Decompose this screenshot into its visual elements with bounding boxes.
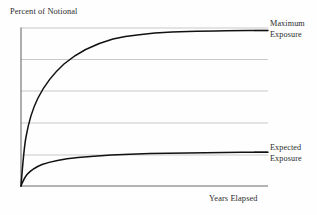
gridlines [21, 28, 268, 155]
annotation-maximum-exposure-line2: Exposure [270, 30, 305, 41]
annotation-maximum-exposure: Maximum Exposure [270, 19, 305, 40]
annotation-expected-exposure-line2: Exposure [270, 154, 302, 165]
y-axis-title: Percent of Notional [10, 7, 78, 18]
annotation-maximum-exposure-line1: Maximum [270, 19, 305, 30]
series-line-expected-exposure [21, 152, 268, 186]
annotation-expected-exposure: Expected Exposure [270, 143, 302, 164]
series-line-maximum-exposure [21, 31, 268, 187]
chart-figure: Percent of Notional Years Elapsed Maximu… [0, 0, 317, 215]
annotation-expected-exposure-line1: Expected [270, 143, 302, 154]
x-axis-title: Years Elapsed [209, 194, 258, 205]
